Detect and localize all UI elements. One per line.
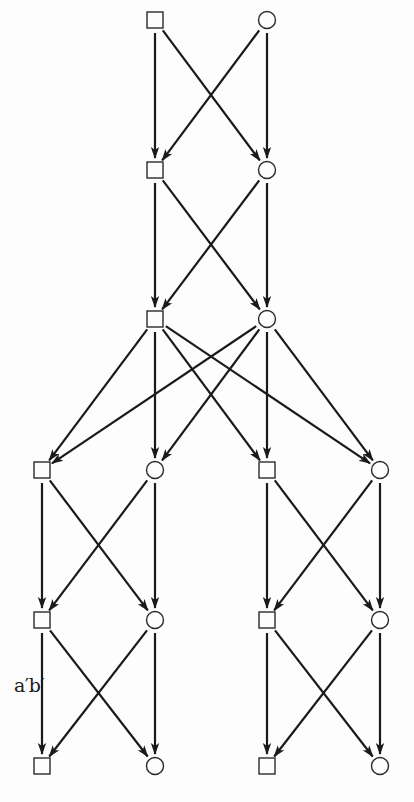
pedigree-diagram — [0, 0, 414, 802]
square-node-icon — [259, 758, 275, 774]
square-node-icon — [259, 612, 275, 628]
circle-node-icon — [372, 758, 389, 775]
circle-node-icon — [259, 162, 276, 179]
circle-node-icon — [372, 462, 389, 479]
square-node-icon — [259, 462, 275, 478]
circle-node-icon — [147, 462, 164, 479]
circle-node-icon — [259, 311, 276, 328]
circle-node-icon — [259, 12, 276, 29]
square-node-icon — [147, 311, 163, 327]
edge-arrow-r3-ci-to-r4-ci-b — [275, 329, 373, 460]
square-node-icon — [34, 462, 50, 478]
edge-label: a′b′ — [14, 674, 44, 696]
square-node-icon — [147, 162, 163, 178]
square-node-icon — [147, 12, 163, 28]
circle-node-icon — [147, 612, 164, 629]
circle-node-icon — [372, 612, 389, 629]
square-node-icon — [34, 758, 50, 774]
edge-arrow-r3-sq-to-r4-sq-a — [49, 329, 147, 460]
square-node-icon — [34, 612, 50, 628]
circle-node-icon — [147, 758, 164, 775]
edges-layer — [42, 30, 380, 756]
